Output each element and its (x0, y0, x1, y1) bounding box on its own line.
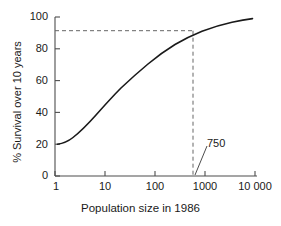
x-axis-title: Population size in 1986 (0, 202, 281, 215)
y-axis-title: % Survival over 10 years (11, 22, 23, 182)
y-tick-label-0: 0 (22, 170, 48, 181)
y-tick-label-100: 100 (22, 11, 48, 22)
y-tick-label-60: 60 (22, 75, 48, 86)
y-tick-label-80: 80 (22, 43, 48, 54)
survival-curve-figure: 100 80 60 40 20 0 1 10 100 1000 10 000 %… (0, 0, 281, 226)
x-tick-label-100: 100 (146, 181, 164, 192)
survival-curve (58, 19, 253, 145)
x-tick-label-1000: 1000 (193, 181, 217, 192)
x-axis-ticks (55, 171, 255, 176)
y-tick-label-20: 20 (22, 139, 48, 150)
annotation-label-750: 750 (207, 138, 225, 149)
annotation-leader-line (195, 146, 207, 175)
x-tick-label-1: 1 (53, 181, 59, 192)
y-tick-label-40: 40 (22, 107, 48, 118)
x-tick-label-10: 10 (99, 181, 111, 192)
x-tick-label-10000: 10 000 (238, 181, 272, 192)
y-axis-ticks (55, 17, 60, 176)
